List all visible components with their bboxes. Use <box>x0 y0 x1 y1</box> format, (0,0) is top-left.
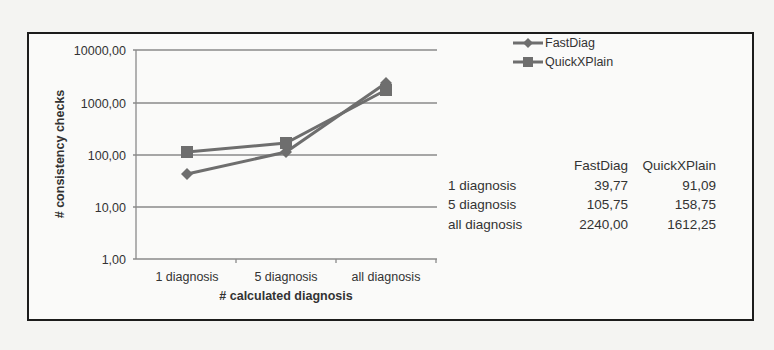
cell-fastdiag: 2240,00 <box>548 217 628 232</box>
y-axis-title: # consistency checks <box>53 90 67 219</box>
legend-label: FastDiag <box>545 36 595 50</box>
x-tick-label: all diagnosis <box>352 270 421 284</box>
table-header: FastDiag <box>548 158 628 173</box>
x-tick-label: 5 diagnosis <box>254 270 317 284</box>
legend: FastDiag QuickXPlain <box>513 33 613 71</box>
legend-item-quickxplain: QuickXPlain <box>513 52 613 71</box>
y-tick-label: 10,00 <box>95 201 126 215</box>
square-line-icon <box>513 57 543 67</box>
diamond-line-icon <box>513 38 543 48</box>
cell-quickxplain: 158,75 <box>628 197 716 212</box>
table-row: 5 diagnosis 105,75 158,75 <box>448 195 716 215</box>
table-row: 1 diagnosis 39,77 91,09 <box>448 176 716 196</box>
square-marker <box>181 146 193 158</box>
series-fastdiag <box>181 77 392 180</box>
cell-fastdiag: 39,77 <box>548 178 628 193</box>
row-label: 5 diagnosis <box>448 197 548 212</box>
legend-item-fastdiag: FastDiag <box>513 33 613 52</box>
y-tick-label: 10000,00 <box>74 44 126 58</box>
cell-fastdiag: 105,75 <box>548 197 628 212</box>
legend-label: QuickXPlain <box>545 55 613 69</box>
data-table: FastDiag QuickXPlain 1 diagnosis 39,77 9… <box>448 156 716 234</box>
y-tick-label: 1000,00 <box>81 97 126 111</box>
y-tick-label: 1,00 <box>102 253 126 267</box>
table-row: all diagnosis 2240,00 1612,25 <box>448 215 716 235</box>
row-label: 1 diagnosis <box>448 178 548 193</box>
table-header: QuickXPlain <box>628 158 716 173</box>
x-axis-title: # calculated diagnosis <box>219 289 352 303</box>
x-tick-label: 1 diagnosis <box>155 270 218 284</box>
y-tick-label: 100,00 <box>88 149 126 163</box>
table-header-row: FastDiag QuickXPlain <box>448 156 716 176</box>
cell-quickxplain: 1612,25 <box>628 217 716 232</box>
row-label: all diagnosis <box>448 217 548 232</box>
diamond-marker <box>181 168 193 180</box>
cell-quickxplain: 91,09 <box>628 178 716 193</box>
